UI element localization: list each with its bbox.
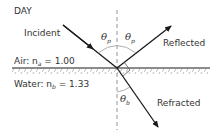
refracted-angle-arc (117, 87, 130, 92)
theta-incident: θp (101, 31, 111, 45)
brewster-angle-diagram: DAY Incident Reflected Refracted θp θp θ… (0, 0, 217, 139)
refracted-label: Refracted (157, 98, 201, 108)
diagram-title: DAY (14, 6, 32, 16)
reflected-label: Reflected (163, 38, 205, 48)
water-medium-label: Water: nb = 1.33 (14, 79, 89, 90)
theta-reflected: θp (125, 31, 135, 45)
incident-arrow-icon (63, 25, 93, 49)
air-medium-label: Air: na = 1.00 (14, 56, 75, 67)
theta-refracted: θb (120, 93, 130, 106)
incident-label: Incident (24, 28, 61, 38)
interface-hatching (12, 69, 210, 74)
